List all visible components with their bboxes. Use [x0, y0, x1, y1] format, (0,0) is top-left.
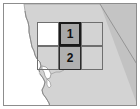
study-box-2-label: 2 — [67, 52, 74, 64]
study-box-2[interactable]: 2 — [59, 46, 81, 70]
locator-map-figure: 1 2 — [0, 0, 140, 109]
figure-frame: 1 2 — [3, 3, 137, 106]
outline-box-lower-left[interactable] — [37, 46, 59, 70]
study-box-1-label: 1 — [67, 28, 74, 40]
outline-box-upper-left[interactable] — [37, 22, 59, 46]
study-box-1[interactable]: 1 — [59, 22, 81, 46]
outline-box-lower-right[interactable] — [81, 46, 103, 70]
outline-box-upper-right[interactable] — [81, 22, 103, 46]
study-box-overlay: 1 2 — [4, 4, 137, 106]
